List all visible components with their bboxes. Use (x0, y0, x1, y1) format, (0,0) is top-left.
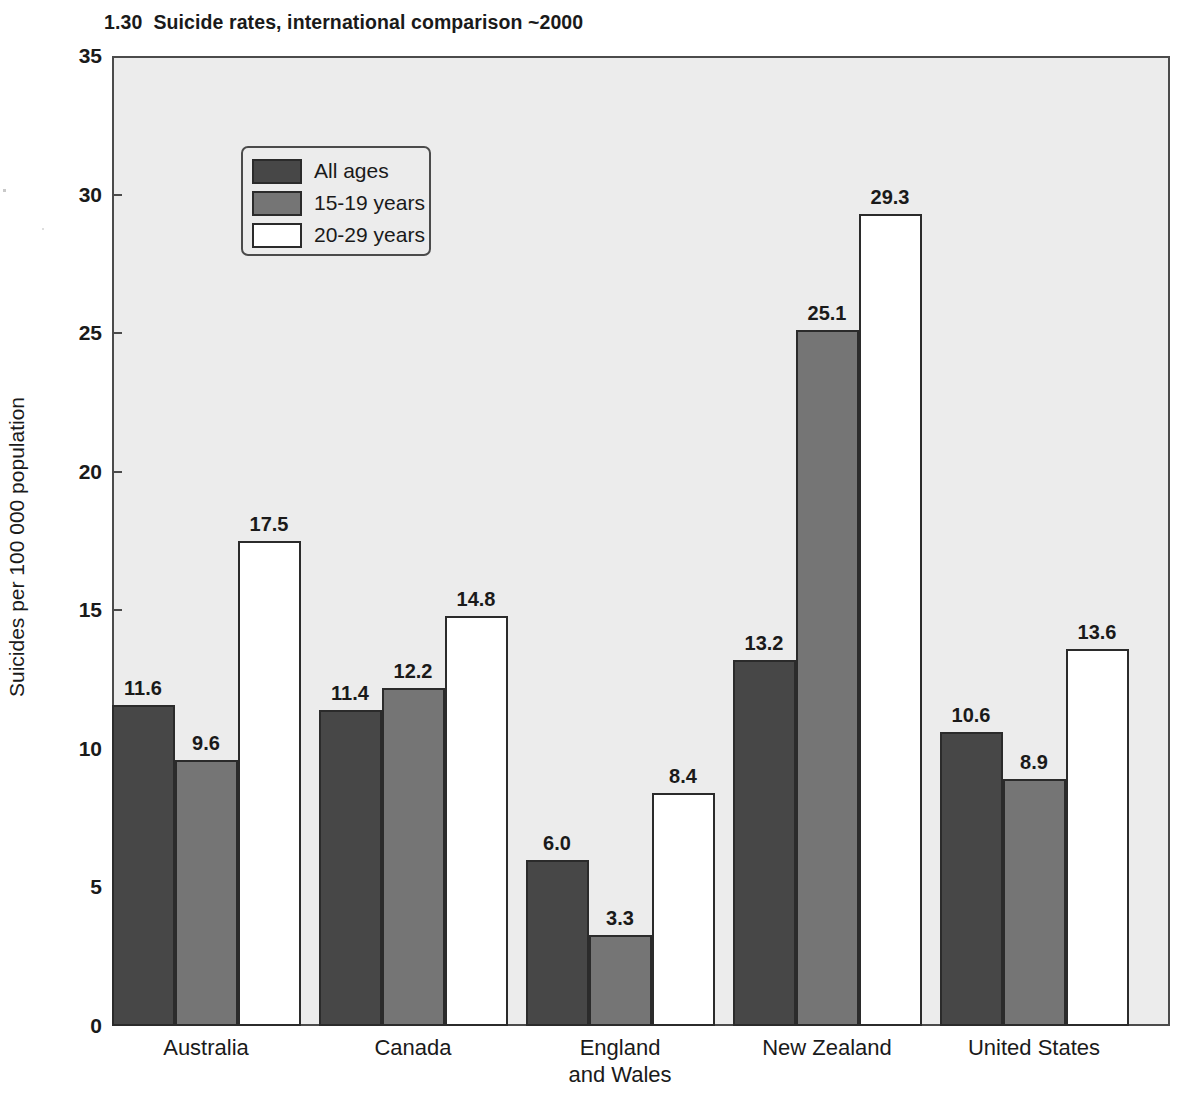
y-tick-label: 0 (54, 1014, 102, 1038)
legend-label-15-19-years: 15-19 years (314, 191, 425, 215)
y-tick-mark (112, 609, 122, 611)
x-axis-label-line: and Wales (568, 1061, 671, 1088)
legend-swatch-all-ages (252, 159, 302, 184)
y-tick-label: 25 (54, 321, 102, 345)
x-axis-label-line: New Zealand (762, 1034, 892, 1061)
y-tick-mark (112, 471, 122, 473)
x-axis-category-label: Canada (374, 1034, 451, 1061)
y-tick-label: 10 (54, 737, 102, 761)
legend-label-20-29-years: 20-29 years (314, 223, 425, 247)
legend-swatch-20-29-years (252, 223, 302, 248)
y-tick-mark (112, 332, 122, 334)
y-tick-label: 35 (54, 44, 102, 68)
legend-swatch-15-19-years (252, 191, 302, 216)
x-axis-category-label: Australia (163, 1034, 249, 1061)
legend-item[interactable]: All ages (252, 156, 429, 186)
y-tick-label: 30 (54, 183, 102, 207)
x-axis-label-line: England (568, 1034, 671, 1061)
y-axis-ticks: 05101520253035 (0, 0, 1189, 1094)
x-axis-label-line: Australia (163, 1034, 249, 1061)
y-tick-label: 15 (54, 598, 102, 622)
x-axis-category-label: Englandand Wales (568, 1034, 671, 1088)
y-tick-mark (112, 886, 122, 888)
legend-label-all-ages: All ages (314, 159, 389, 183)
legend: All ages 15-19 years 20-29 years (241, 146, 431, 256)
x-axis-category-label: New Zealand (762, 1034, 892, 1061)
y-tick-mark (112, 194, 122, 196)
scan-speck (3, 189, 6, 192)
y-tick-mark (112, 748, 122, 750)
y-tick-label: 5 (54, 875, 102, 899)
legend-item[interactable]: 15-19 years (252, 188, 429, 218)
legend-item[interactable]: 20-29 years (252, 220, 429, 250)
y-tick-label: 20 (54, 460, 102, 484)
x-axis-label-line: United States (968, 1034, 1100, 1061)
scan-speck (42, 228, 44, 230)
x-axis-category-label: United States (968, 1034, 1100, 1061)
x-axis-label-line: Canada (374, 1034, 451, 1061)
